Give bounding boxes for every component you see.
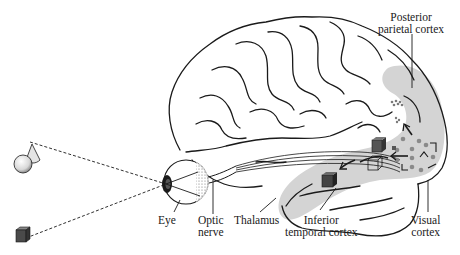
label-eye: Eye [158,214,176,226]
label-line: parietal cortex [378,23,444,35]
label-line: Eye [158,214,176,226]
label-line: nerve [198,226,224,238]
label-thalamus: Thalamus [234,214,279,226]
label-posterior-parietal-cortex: Posterior parietal cortex [378,11,444,35]
cube-object [16,227,30,242]
label-visual-cortex: Visual cortex [411,214,440,238]
label-line: Visual [411,214,440,226]
label-line: Thalamus [234,214,279,226]
parietal-activation-dots [391,100,404,124]
sphere-cone-object [14,144,40,173]
processing-cube-dark [372,137,386,152]
label-line: cortex [411,226,440,238]
label-optic-nerve: Optic nerve [198,214,224,238]
label-line: Posterior [378,11,444,23]
eye-icon [162,160,209,204]
label-line: temporal cortex [285,226,357,238]
label-inferior-temporal-cortex: Inferior temporal cortex [285,214,357,238]
label-line: Optic [198,214,224,226]
visual-pathway-diagram: Posterior parietal cortex Eye Optic nerv… [0,0,460,255]
label-line: Inferior [285,214,357,226]
inferior-temporal-cube [322,172,337,187]
processing-square [392,146,396,150]
